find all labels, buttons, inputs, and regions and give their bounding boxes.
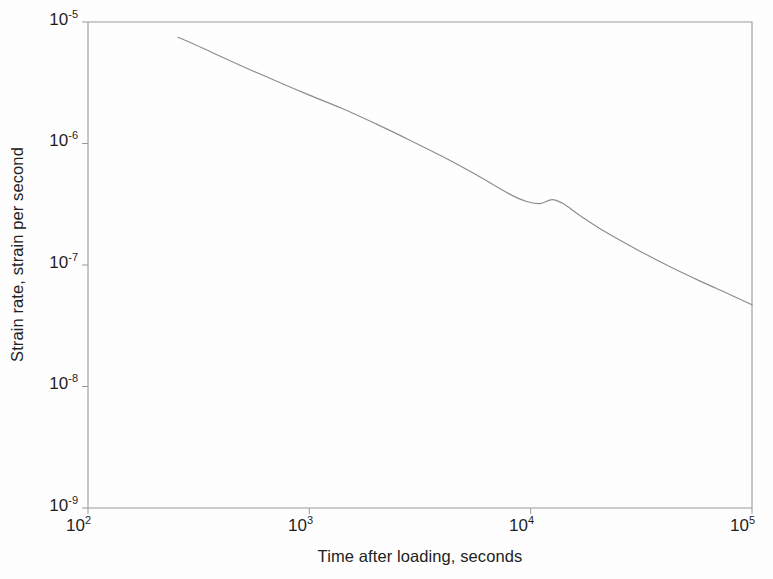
y-axis-ticks	[82, 22, 88, 508]
x-tick-label: 104	[509, 516, 534, 536]
y-tick-label: 10-7	[30, 253, 78, 273]
y-tick-label: 10-8	[30, 374, 78, 394]
axis-frame	[88, 22, 752, 508]
x-tick-label: 102	[66, 516, 91, 536]
chart-figure: 10-5 10-6 10-7 10-8 10-9 102 103 104 105…	[0, 0, 773, 579]
y-tick-label: 10-9	[30, 496, 78, 516]
chart-plot-area	[0, 0, 773, 579]
x-tick-label: 105	[730, 516, 755, 536]
x-axis-ticks	[88, 508, 752, 514]
y-axis-title-container: Strain rate, strain per second	[2, 0, 32, 508]
y-tick-label: 10-6	[30, 131, 78, 151]
x-tick-label: 103	[288, 516, 313, 536]
y-tick-label: 10-5	[30, 10, 78, 30]
x-axis-title: Time after loading, seconds	[88, 547, 752, 566]
data-series-strain-rate	[178, 37, 752, 305]
y-axis-title: Strain rate, strain per second	[8, 147, 27, 362]
